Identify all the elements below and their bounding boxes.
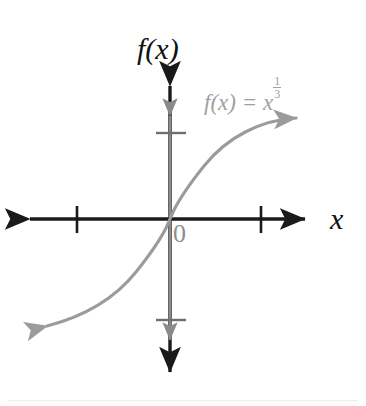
curve-equation-base: f(x) = x [204, 90, 273, 115]
function-graph-figure [0, 0, 366, 406]
x-axis-label: x [330, 204, 343, 234]
curve-exponent-fraction: 13 [273, 75, 281, 101]
curve-exponent-numerator: 1 [273, 75, 281, 89]
y-axis-label: f(x) [137, 34, 179, 64]
curve-exponent-denominator: 3 [273, 88, 281, 101]
origin-label: 0 [173, 221, 186, 247]
curve-equation-label: f(x) = x13 [204, 78, 281, 114]
bottom-divider [8, 400, 358, 401]
